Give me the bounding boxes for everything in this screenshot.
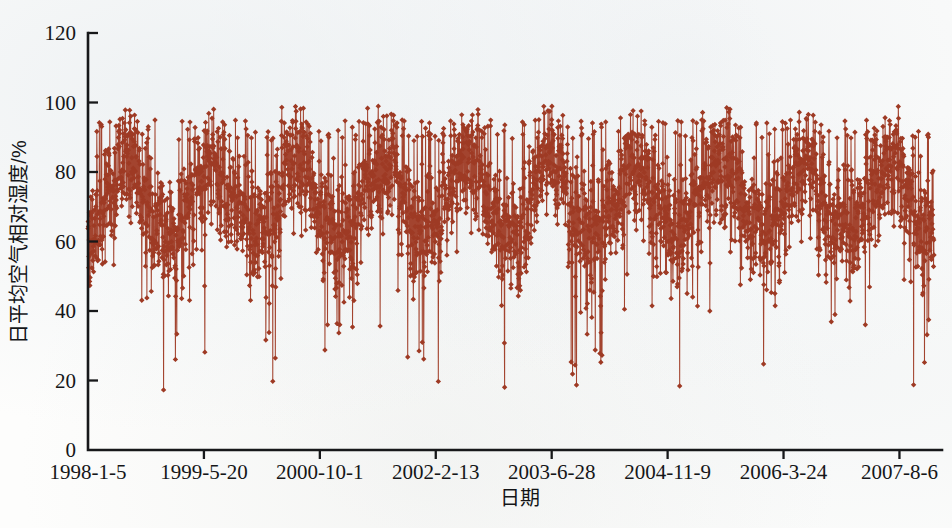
y-tick-label: 120	[45, 21, 77, 45]
y-tick-label: 100	[45, 91, 77, 115]
x-tick-label: 2007-8-6	[861, 460, 938, 484]
data-series-layer	[85, 103, 936, 392]
series-markers	[85, 103, 936, 392]
humidity-time-series-chart: 0204060801001201998-1-51999-5-202000-10-…	[0, 0, 952, 528]
y-tick-label: 80	[55, 160, 76, 184]
y-tick-label: 60	[55, 230, 76, 254]
y-tick-label: 40	[55, 299, 76, 323]
x-tick-label: 1998-1-5	[50, 460, 127, 484]
y-axis-title: 日平均空气相对湿度/%	[8, 140, 30, 344]
x-tick-label: 2000-10-1	[276, 460, 364, 484]
x-axis-title: 日期	[500, 487, 540, 509]
x-tick-label: 2006-3-24	[740, 460, 828, 484]
figure-canvas: 0204060801001201998-1-51999-5-202000-10-…	[0, 0, 952, 528]
y-tick-label: 0	[66, 438, 77, 462]
x-tick-label: 2004-11-9	[624, 460, 711, 484]
x-tick-label: 2003-6-28	[508, 460, 596, 484]
x-tick-label: 2002-2-13	[392, 460, 480, 484]
x-tick-label: 1999-5-20	[160, 460, 248, 484]
y-tick-label: 20	[55, 369, 76, 393]
